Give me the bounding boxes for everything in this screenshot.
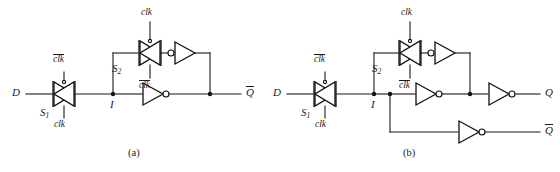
feedback-inverter-b[interactable]	[428, 42, 455, 64]
s1-name-label-b: S1	[301, 107, 310, 120]
s2-bottom-control-label-b: clk	[399, 80, 410, 91]
transmission-gate-s1-b[interactable]	[314, 72, 336, 118]
input-label-d-a: D	[12, 87, 20, 98]
caption-b: (b)	[403, 148, 415, 159]
s2-bottom-control-label-a: clk	[139, 80, 150, 91]
node-i-label-a: I	[110, 99, 114, 110]
s2-name-label-b: S2	[372, 63, 381, 76]
output-label-qbar-a: Q	[246, 86, 254, 99]
s2-subscript-a: 2	[118, 67, 122, 76]
s1-top-control-text-a: clk	[53, 54, 64, 65]
input-label-d-b: D	[273, 87, 281, 98]
qbar-output-inverter-b[interactable]	[459, 121, 485, 143]
s1-subscript-a: 1	[46, 111, 50, 120]
s2-name-label-a: S2	[112, 63, 121, 76]
s1-name-label-a: S1	[40, 107, 49, 120]
q-output-inverter-b[interactable]	[489, 83, 515, 105]
transmission-gate-s1[interactable]	[53, 72, 75, 118]
transmission-gate-s2[interactable]	[139, 22, 161, 78]
figure-root: D clk clk S1 clk clk S2 I Q (a) D clk cl…	[0, 0, 560, 172]
s2-top-control-label-b: clk	[401, 8, 412, 18]
s2-bottom-control-text-a: clk	[139, 80, 150, 91]
caption-a: (a)	[128, 148, 140, 159]
transmission-gate-s2-b[interactable]	[399, 22, 421, 78]
diagram-a-circuit	[26, 22, 241, 118]
output-label-q-b: Q	[545, 87, 553, 98]
s1-top-control-text-b: clk	[314, 54, 325, 65]
output-label-qbar-b: Q	[545, 124, 553, 137]
s2-bottom-control-text-b: clk	[399, 80, 410, 91]
s1-bottom-control-label-a: clk	[54, 120, 65, 130]
s1-subscript-b: 1	[307, 111, 311, 120]
output-qbar-text-b: Q	[545, 124, 553, 137]
s1-bottom-control-label-b: clk	[315, 120, 326, 130]
s1-top-control-label-b: clk	[314, 54, 325, 65]
middle-inverter-b[interactable]	[416, 83, 442, 105]
node-i-label-b: I	[371, 99, 375, 110]
feedback-inverter-a[interactable]	[168, 42, 195, 64]
output-qbar-text-a: Q	[246, 86, 254, 99]
s2-subscript-b: 2	[378, 67, 382, 76]
s1-top-control-label-a: clk	[53, 54, 64, 65]
s2-top-control-label-a: clk	[141, 8, 152, 18]
